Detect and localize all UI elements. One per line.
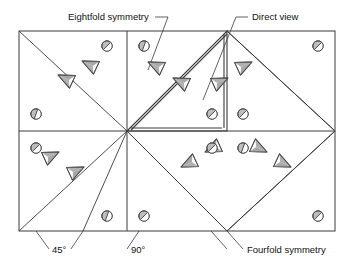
- figure-container: Eightfold symmetry Direct view 45° 90° F…: [0, 0, 352, 261]
- symmetry-diagram: Eightfold symmetry Direct view 45° 90° F…: [0, 0, 352, 261]
- label-eightfold-symmetry: Eightfold symmetry: [68, 11, 149, 22]
- leader-45-right: [71, 231, 83, 249]
- leader-45-left: [36, 231, 49, 249]
- label-angle-45: 45°: [52, 244, 67, 255]
- leader-fourfold-right: [211, 231, 227, 249]
- leader-fourfold-left: [227, 231, 243, 249]
- label-fourfold-symmetry: Fourfold symmetry: [247, 244, 326, 255]
- label-direct-view: Direct view: [252, 11, 299, 22]
- label-angle-90: 90°: [131, 244, 146, 255]
